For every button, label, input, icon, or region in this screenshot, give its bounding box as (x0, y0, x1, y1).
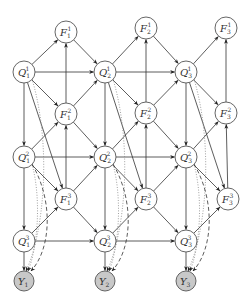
node-q2-1: Q21 (94, 61, 116, 83)
node-superscript: 2 (228, 106, 232, 113)
edge-F1_2-to-Q2_1 (73, 80, 97, 106)
edge-Q1_2-to-F1_3 (32, 165, 58, 191)
node-y1: Y1 (14, 271, 34, 291)
edge-Q3_1-to-F3_1 (193, 37, 218, 64)
dotted-edge-Q1_2-to-Y1 (28, 164, 38, 271)
dashed-edge-Q3_2-to-Y3 (193, 164, 209, 271)
edge-Q3_2-to-F3_2 (193, 122, 218, 149)
node-superscript: 3 (26, 234, 30, 241)
edge-Q3_3-to-F3_3 (194, 207, 220, 233)
node-superscript: 1 (188, 65, 192, 72)
node-f3-2: F32 (215, 102, 237, 124)
dotted-edge-Q2_2-to-Y2 (109, 164, 119, 271)
node-superscript: 1 (228, 21, 232, 28)
graphical-model-diagram: F11F21F31Q11Q21Q31F12F22F32Q12Q22Q32F13F… (0, 0, 251, 307)
node-f1-3: F13 (55, 188, 77, 210)
node-f2-2: F22 (135, 102, 157, 124)
edge-Q1_1-to-F1_1 (32, 40, 58, 64)
node-q2-3: Q23 (94, 230, 116, 252)
node-superscript: 3 (68, 192, 72, 199)
node-superscript: 1 (107, 65, 111, 72)
node-f1-2: F12 (55, 103, 77, 125)
dashed-edge-Q2_2-to-Y2 (112, 164, 128, 271)
node-f3-3: F33 (217, 188, 239, 210)
node-q1-2: Q12 (13, 146, 35, 168)
edge-Q1_1-to-F1_2 (32, 80, 58, 106)
node-superscript: 1 (68, 25, 72, 32)
edge-Q2_2-to-F2_3 (113, 165, 138, 191)
node-y2: Y2 (95, 271, 115, 291)
node-q3-3: Q33 (175, 230, 197, 252)
node-superscript: 3 (230, 192, 234, 199)
node-q2-2: Q22 (94, 146, 116, 168)
node-q3-2: Q32 (175, 146, 197, 168)
dashed-edge-Q1_2-to-Y1 (31, 164, 47, 271)
node-superscript: 2 (68, 107, 72, 114)
edge-F1_3-to-Q2_2 (73, 165, 97, 191)
node-q1-1: Q11 (13, 61, 35, 83)
edge-F1_1-to-Q2_1 (74, 40, 97, 64)
node-y3: Y3 (176, 271, 196, 291)
node-f3-1: F31 (215, 17, 237, 39)
dotted-edge-Q3_2-to-Y3 (190, 164, 200, 271)
edge-F2_1-to-Q3_1 (153, 36, 178, 63)
edge-F2_3-to-Q3_3 (154, 207, 178, 233)
edge-Q1_3-to-F1_3 (32, 207, 58, 233)
node-superscript: 3 (148, 192, 152, 199)
node-f2-1: F21 (135, 17, 157, 39)
node-f2-3: F23 (135, 188, 157, 210)
node-superscript: 2 (188, 150, 192, 157)
node-q3-1: Q31 (175, 61, 197, 83)
edge-F2_3-to-Q3_2 (154, 165, 178, 191)
node-superscript: 3 (107, 234, 111, 241)
node-superscript: 2 (148, 106, 152, 113)
edge-Q1_2-to-F1_2 (32, 122, 58, 149)
node-q1-3: Q13 (13, 230, 35, 252)
node-superscript: 2 (26, 150, 30, 157)
node-superscript: 1 (26, 65, 30, 72)
edge-F3_3-to-F3_2 (226, 124, 227, 188)
node-superscript: 2 (107, 150, 111, 157)
node-f1-1: F11 (55, 21, 77, 43)
edge-F2_2-to-Q3_2 (153, 121, 178, 148)
edge-Q2_3-to-F2_3 (113, 207, 138, 233)
edge-Q2_2-to-F2_2 (112, 121, 138, 149)
node-superscript: 1 (148, 21, 152, 28)
edge-F1_2-to-Q2_2 (73, 122, 97, 148)
edge-F2_2-to-Q3_1 (154, 80, 178, 105)
node-superscript: 3 (188, 234, 192, 241)
edge-Q3_1-to-F3_3 (189, 82, 224, 188)
edge-Q2_1-to-F2_1 (112, 36, 138, 64)
edge-F1_3-to-Q2_3 (73, 207, 97, 233)
edge-Q3_2-to-F3_3 (194, 165, 220, 191)
